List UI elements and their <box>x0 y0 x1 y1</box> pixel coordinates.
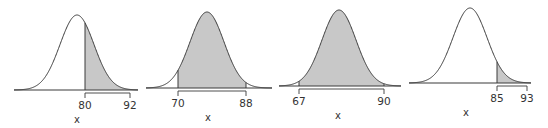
interval-bracket <box>497 86 527 91</box>
panel-1: 80 92 x <box>14 15 138 125</box>
shaded-area <box>299 10 384 86</box>
shaded-area <box>497 62 531 83</box>
x-axis-label: x <box>74 114 80 125</box>
normal-curve <box>409 8 531 83</box>
x-axis-label: x <box>463 107 469 118</box>
interval-bracket <box>85 93 130 98</box>
panel-2: 70 88 x <box>146 12 272 123</box>
normal-curve <box>14 15 138 90</box>
x-axis-label: x <box>205 112 211 123</box>
panel-4: 85 93 x <box>409 8 534 118</box>
tick-label-left: 70 <box>171 97 184 109</box>
normal-curves-figure: 80 92 x 70 88 x 67 90 x 85 93 x <box>0 0 548 128</box>
tick-label-left: 67 <box>292 95 305 107</box>
panel-3: 67 90 x <box>279 10 401 121</box>
tick-label-right: 90 <box>377 95 390 107</box>
tick-label-left: 80 <box>78 99 91 111</box>
interval-bracket <box>299 89 384 94</box>
tick-label-right: 88 <box>239 97 252 109</box>
tick-label-left: 85 <box>490 92 503 104</box>
tick-label-right: 93 <box>520 92 533 104</box>
tick-label-right: 92 <box>123 99 136 111</box>
interval-bracket <box>178 91 246 96</box>
x-axis-label: x <box>335 110 341 121</box>
shaded-area <box>178 12 246 88</box>
